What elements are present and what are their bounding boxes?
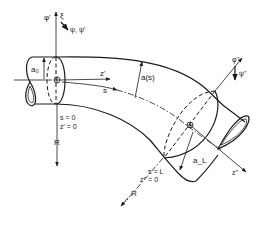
curved-pipe-diagram: φ' ξ ψ, ψ' a₀ z' s s = 0 z' = 0 R a(s) φ… [0,0,263,225]
label-s-eq-L: s = L [148,168,163,175]
aL-radius-arrow [180,132,193,170]
label-R-outlet: R [131,189,137,198]
label-phi-double-prime: φ'' [232,56,239,64]
s-axis-arrow [62,82,117,90]
label-aL: a_L [193,156,207,165]
label-z-double-prime: z'' [232,169,238,176]
pipe-outlet-edge [224,106,245,122]
label-s-eq-0: s = 0 [60,114,75,121]
label-s: s [103,86,107,95]
label-a0: a₀ [31,65,39,74]
label-psi-psi-prime: ψ, ψ' [70,26,85,34]
inlet-axes [14,12,117,166]
inlet-ellipse-back [47,57,56,104]
label-xi: ξ [60,11,64,20]
label-R-inlet: R [54,138,60,147]
psi-rotation-arrow [61,22,68,30]
pipe-centreline [117,90,222,150]
outlet-end [164,91,249,158]
label-z-double-prime-eq-0: z'' = 0 [140,176,158,183]
outlet-axes [121,58,246,206]
label-a-s: a(s) [141,73,155,82]
outlet-R-axis-arrow [121,198,128,206]
outlet-ellipse-front [164,91,218,158]
outlet-diameter-dashed [164,91,215,158]
label-phi-prime: φ' [44,13,51,22]
label-z-prime: z' [100,69,106,78]
label-psi-double-prime: ψ'' [239,70,247,78]
label-z-prime-eq-0: z' = 0 [60,123,77,130]
z-prime-axis-arrow [60,79,110,80]
